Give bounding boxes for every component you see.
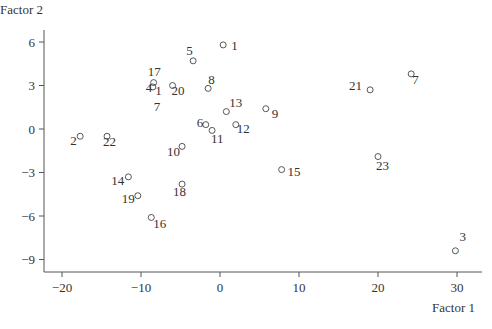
point-label: 17: [148, 64, 162, 79]
point-label: 15: [288, 164, 301, 179]
data-point: 12: [233, 121, 250, 136]
data-point: 14: [111, 173, 131, 188]
point-label: 23: [376, 158, 389, 173]
data-point: 18: [173, 181, 186, 199]
point-label: 14: [111, 173, 125, 188]
point-label: 3: [459, 229, 466, 244]
point-label: 21: [349, 78, 362, 93]
chart-canvas: 630−3−6−9−20−100102030 12345678910111213…: [0, 0, 492, 329]
circle-marker-icon: [220, 42, 226, 48]
y-tick-label: −9: [21, 252, 35, 267]
point-label: 1: [155, 83, 162, 98]
point-label: 8: [208, 72, 215, 87]
x-tick-label: 10: [293, 280, 306, 295]
circle-marker-icon: [452, 248, 458, 254]
x-tick-label: 30: [451, 280, 464, 295]
data-point: 10: [167, 143, 185, 159]
data-point: 11: [209, 127, 224, 146]
data-point: 21: [349, 78, 373, 93]
data-point: 2: [70, 133, 83, 148]
data-point: 3: [452, 229, 466, 254]
point-label: 22: [103, 134, 116, 149]
point-label: 11: [211, 131, 224, 146]
data-point: 8: [205, 72, 215, 91]
data-point: 23: [375, 154, 389, 173]
data-point: 1: [220, 38, 238, 53]
data-point: 5: [186, 43, 196, 64]
data-point: 6: [197, 115, 209, 130]
data-point: 9: [263, 106, 279, 121]
y-tick-label: 6: [29, 35, 36, 50]
data-points: 123456789101112131415161718192021222317: [70, 38, 466, 254]
circle-marker-icon: [190, 58, 196, 64]
point-label: 4: [146, 80, 153, 95]
circle-marker-icon: [77, 133, 83, 139]
y-tick-label: 0: [29, 122, 36, 137]
point-label: 5: [186, 43, 193, 58]
x-tick-label: 0: [217, 280, 224, 295]
data-point: 22: [103, 133, 116, 149]
x-axis-label: Factor 1: [432, 300, 475, 315]
point-label: 13: [229, 95, 242, 110]
point-label: 9: [272, 106, 279, 121]
circle-marker-icon: [203, 122, 209, 128]
point-label: 10: [167, 144, 180, 159]
point-label: 20: [172, 83, 185, 98]
circle-marker-icon: [263, 106, 269, 112]
y-tick-label: −3: [21, 165, 35, 180]
y-tick-label: −6: [21, 209, 35, 224]
circle-marker-icon: [279, 167, 285, 173]
point-label: 7: [412, 72, 419, 87]
point-label: 6: [197, 115, 204, 130]
data-point: 19: [122, 191, 141, 206]
x-tick-label: −10: [131, 280, 151, 295]
point-label: 19: [122, 191, 135, 206]
data-point: 15: [279, 164, 301, 179]
circle-marker-icon: [135, 193, 141, 199]
point-label: 7: [154, 99, 161, 114]
point-label: 1: [231, 38, 238, 53]
point-label: 18: [173, 184, 186, 199]
data-point: 16: [148, 214, 167, 231]
data-point: 20: [170, 83, 185, 98]
point-label: 12: [237, 121, 250, 136]
circle-marker-icon: [367, 87, 373, 93]
y-axis-label: Factor 2: [0, 2, 43, 17]
data-point: 13: [223, 95, 242, 115]
point-label: 16: [153, 216, 167, 231]
data-point: 7: [408, 71, 419, 87]
axes: 630−3−6−9−20−100102030: [21, 30, 482, 295]
y-tick-label: 3: [29, 78, 36, 93]
circle-marker-icon: [125, 174, 131, 180]
x-tick-label: −20: [52, 280, 72, 295]
point-label: 2: [70, 133, 77, 148]
scatter-chart: 630−3−6−9−20−100102030 12345678910111213…: [0, 0, 492, 329]
x-tick-label: 20: [372, 280, 385, 295]
